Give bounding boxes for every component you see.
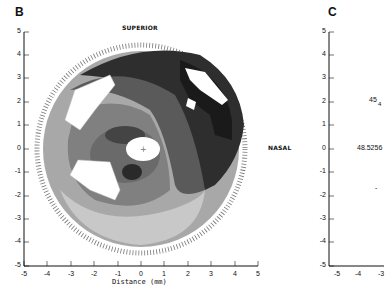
c-value: 45 — [369, 96, 377, 103]
svg-text:+: + — [140, 145, 147, 154]
b-ytick: 3 — [9, 73, 21, 80]
c-xtick: -4 — [352, 270, 364, 277]
b-xtick: -5 — [18, 270, 30, 277]
b-ytick: 1 — [9, 120, 21, 127]
b-xtick: 1 — [158, 270, 170, 277]
b-xlabel: Distance (mm) — [112, 278, 167, 286]
c-ytick: 1 — [314, 120, 326, 127]
b-xtick: 0 — [135, 270, 147, 277]
b-xtick: 3 — [205, 270, 217, 277]
c-value: - — [375, 184, 377, 191]
topography-map: + — [43, 51, 244, 248]
b-ytick: -2 — [9, 191, 21, 198]
b-ytick: 5 — [9, 27, 21, 34]
b-xtick: -4 — [41, 270, 53, 277]
c-value-sub: 4 — [378, 101, 381, 107]
b-xtick: 4 — [229, 270, 241, 277]
c-ytick: 0 — [314, 144, 326, 151]
b-ytick: -4 — [9, 237, 21, 244]
b-ytick: 0 — [9, 144, 21, 151]
c-ytick: -3 — [314, 214, 326, 221]
b-xtick: 5 — [252, 270, 264, 277]
c-ytick: 4 — [314, 50, 326, 57]
b-ytick: -5 — [9, 261, 21, 268]
c-ytick: -1 — [314, 167, 326, 174]
b-xtick: 2 — [182, 270, 194, 277]
b-ytick: -1 — [9, 167, 21, 174]
c-xtick: -5 — [331, 270, 343, 277]
b-ytick: 2 — [9, 97, 21, 104]
c-ytick: 3 — [314, 73, 326, 80]
b-xtick: -2 — [88, 270, 100, 277]
panel-c-label: C — [328, 5, 337, 19]
b-xtick: -3 — [65, 270, 77, 277]
b-xtick: -1 — [112, 270, 124, 277]
c-value: 48.5256 — [357, 144, 382, 151]
c-ytick: 5 — [314, 27, 326, 34]
b-ytick: -3 — [9, 214, 21, 221]
c-ytick: 2 — [314, 97, 326, 104]
c-ytick: -2 — [314, 191, 326, 198]
c-xtick: -3 — [375, 270, 387, 277]
b-ytick: 4 — [9, 50, 21, 57]
panel-b-x-ticks — [24, 261, 258, 266]
panel-b-y-ticks — [24, 32, 29, 266]
c-ytick: -4 — [314, 237, 326, 244]
panel-c-y-ticks — [329, 32, 334, 266]
c-ytick: -5 — [314, 261, 326, 268]
